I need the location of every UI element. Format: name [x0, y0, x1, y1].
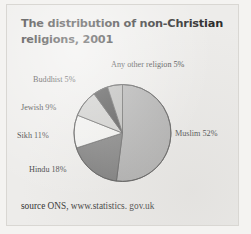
- source-note: source ONS, www.statistics. gov.uk: [21, 201, 154, 211]
- pie-chart-svg: [7, 5, 239, 226]
- pie-slice-muslim: [116, 85, 171, 182]
- slice-label-hindu: Hindu 18%: [29, 165, 67, 175]
- slice-label-buddhist: Buddhist 5%: [33, 75, 76, 85]
- slice-label-any-other-religion: Any other religion 5%: [111, 60, 184, 70]
- scanned-page: The distribution of non-Christian religi…: [6, 4, 239, 226]
- slice-label-muslim: Muslim 52%: [175, 129, 218, 139]
- screenshot-canvas: The distribution of non-Christian religi…: [0, 0, 251, 234]
- slice-label-jewish: Jewish 9%: [21, 103, 56, 113]
- pie-chart-figure: Any other religion 5% Buddhist 5% Jewish…: [7, 5, 239, 226]
- pie-slices: [74, 85, 171, 182]
- slice-label-sikh: Sikh 11%: [17, 131, 49, 141]
